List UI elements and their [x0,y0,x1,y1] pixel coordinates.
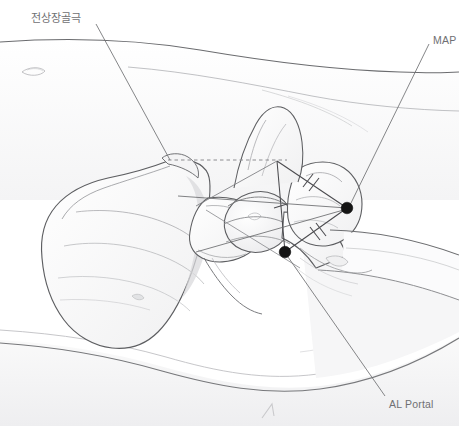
label-al-portal: AL Portal [389,399,434,410]
inferior-ramus-inner [212,258,240,293]
al-portal-point-marker[interactable] [279,246,291,258]
anatomical-illustration-svg [0,0,459,426]
label-map: MAP [433,35,456,46]
label-asis: 전상장골극 [31,13,81,24]
map-point-marker[interactable] [341,202,353,214]
upper-body-shading [0,40,459,200]
illustration-figure: 전상장골극 MAP AL Portal [0,0,459,426]
